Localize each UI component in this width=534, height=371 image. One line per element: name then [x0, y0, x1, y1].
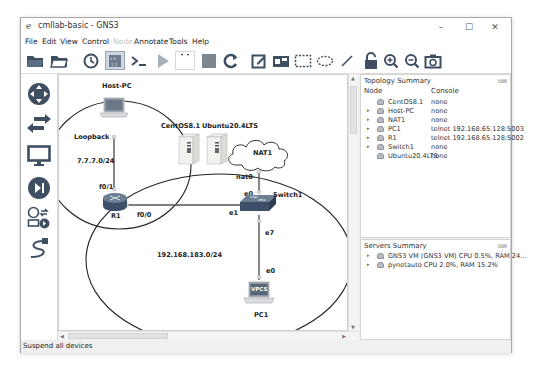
- panel-float-close-icons[interactable]: ⧉⊠: [498, 242, 507, 250]
- centos-node[interactable]: [177, 133, 201, 169]
- column-node: Node: [364, 87, 382, 95]
- add-link-button[interactable]: [25, 234, 53, 262]
- end-devices-button[interactable]: [25, 142, 53, 170]
- scroll-right-icon[interactable]: ▶: [342, 333, 346, 339]
- topology-row[interactable]: CentOS8.1 none: [361, 98, 510, 107]
- interface-labels-icon: a b1 2: [108, 54, 122, 68]
- expand-arrow-icon[interactable]: ▸: [367, 143, 370, 149]
- nat1-label: NAT1: [253, 149, 272, 157]
- draw-ellipse-button[interactable]: [315, 51, 335, 70]
- topology-summary-panel: Topology Summary ⧉⊠ Node Console CentOS8…: [360, 74, 511, 238]
- servers-summary-title: Servers Summary: [364, 242, 427, 250]
- open-recent-button[interactable]: [49, 51, 69, 70]
- host-pc-node[interactable]: [99, 97, 129, 123]
- switches-button[interactable]: [25, 111, 53, 139]
- unlock-icon: [364, 52, 378, 70]
- switch-arrows-icon: [26, 114, 52, 136]
- server-status-icon: [377, 262, 384, 268]
- server-row[interactable]: ▸ pynetauto CPU 2.0%, RAM 15.2%: [361, 261, 510, 270]
- svg-text:a b: a b: [110, 56, 117, 61]
- title-bar: ℯ cmllab-basic - GNS3 – ☐ ✕: [21, 18, 511, 36]
- expand-arrow-icon[interactable]: ▸: [367, 107, 370, 113]
- panel-float-close-icons[interactable]: ⧉⊠: [498, 77, 507, 85]
- zoom-in-icon: [383, 53, 399, 69]
- close-button[interactable]: ✕: [483, 20, 507, 34]
- minimize-button[interactable]: –: [429, 20, 453, 34]
- switch-icon: [239, 193, 277, 213]
- nat1-node[interactable]: NAT1: [224, 135, 300, 177]
- draw-line-button[interactable]: [337, 51, 357, 70]
- zoom-in-button[interactable]: [381, 51, 401, 70]
- loopback-network-label: 7.7.7.0/24: [77, 157, 114, 165]
- node-status-icon: [377, 126, 384, 132]
- add-note-button[interactable]: [249, 51, 269, 70]
- gns3-app-icon: ℯ: [26, 21, 31, 31]
- expand-arrow-icon[interactable]: ▸: [367, 252, 370, 258]
- topology-canvas[interactable]: Host-PC Loopback 7.7.7.0/24 f0/1 CentOS8…: [58, 74, 348, 331]
- security-devices-button[interactable]: [25, 174, 53, 202]
- console-all-button[interactable]: [129, 51, 149, 70]
- device-type-bar: [21, 74, 58, 340]
- open-project-button[interactable]: [25, 51, 45, 70]
- cable-icon: [27, 236, 51, 260]
- topology-row[interactable]: ▸ PC1 telnet 192.168.65.128:5003: [361, 125, 510, 134]
- start-all-button[interactable]: [153, 51, 173, 70]
- menu-annotate[interactable]: Annotate: [134, 37, 168, 46]
- pc1-label: PC1: [254, 311, 268, 319]
- menu-help[interactable]: Help: [192, 37, 209, 46]
- router-icon: [27, 82, 51, 106]
- router-icon: [102, 192, 128, 212]
- screenshot-button[interactable]: [423, 51, 443, 70]
- topology-row[interactable]: Ubuntu20.4LTS none: [361, 152, 510, 161]
- vertical-scroll-thumb[interactable]: [350, 86, 357, 134]
- menu-tools[interactable]: Tools: [169, 37, 187, 46]
- zoom-out-icon: [404, 53, 420, 69]
- canvas-vertical-scrollbar[interactable]: ▲ ▼: [348, 74, 358, 331]
- routers-button[interactable]: [25, 80, 53, 108]
- horizontal-scroll-thumb[interactable]: [68, 333, 168, 339]
- r1-f01-label: f0/1: [99, 183, 113, 191]
- stop-all-button[interactable]: [199, 51, 219, 70]
- expand-arrow-icon[interactable]: ▸: [367, 134, 370, 140]
- topology-row[interactable]: ▸ Host-PC none: [361, 107, 510, 116]
- topology-row[interactable]: ▸ R1 telnet 192.168.65.128:5002: [361, 134, 510, 143]
- lock-button[interactable]: [361, 51, 381, 70]
- ellipse-icon: [316, 54, 334, 68]
- scroll-left-icon[interactable]: ◀: [60, 333, 64, 339]
- vpcs-badge: VPCS: [251, 286, 267, 292]
- zoom-out-button[interactable]: [402, 51, 422, 70]
- scroll-up-icon[interactable]: ▲: [351, 75, 355, 81]
- expand-arrow-icon[interactable]: ▸: [367, 116, 370, 122]
- main-toolbar: a b1 2: [21, 48, 511, 74]
- menu-file[interactable]: File: [25, 37, 38, 46]
- menu-view[interactable]: View: [60, 37, 78, 46]
- maximize-button[interactable]: ☐: [457, 20, 481, 34]
- menu-control[interactable]: Control: [82, 37, 109, 46]
- scroll-down-icon[interactable]: ▼: [351, 324, 355, 330]
- insert-picture-button[interactable]: [271, 51, 291, 70]
- canvas-horizontal-scrollbar[interactable]: ◀ ▶: [58, 331, 358, 340]
- all-devices-button[interactable]: [25, 204, 53, 232]
- pc1-e0-port-label: e0: [266, 267, 275, 275]
- svg-text:1 2: 1 2: [111, 62, 118, 67]
- reload-icon: [223, 53, 239, 69]
- security-icon: [27, 176, 51, 200]
- topology-row[interactable]: ▸ NAT1 none: [361, 116, 510, 125]
- menu-edit[interactable]: Edit: [42, 37, 57, 46]
- suspend-all-button[interactable]: [175, 51, 195, 70]
- topology-row[interactable]: ▸ Switch1 none: [361, 143, 510, 152]
- draw-rectangle-button[interactable]: [293, 51, 313, 70]
- snapshot-button[interactable]: [81, 51, 101, 70]
- folder-icon: [26, 54, 44, 68]
- expand-arrow-icon[interactable]: ▸: [367, 125, 370, 131]
- lan-network-label: 192.168.183.0/24: [157, 251, 222, 259]
- reload-all-button[interactable]: [221, 51, 241, 70]
- expand-arrow-icon[interactable]: ▸: [367, 261, 370, 267]
- pc1-node[interactable]: VPCS: [243, 281, 275, 311]
- host-pc-label: Host-PC: [102, 82, 132, 90]
- switch1-node[interactable]: [239, 193, 277, 217]
- server-row[interactable]: ▸ GNS3 VM (GNS3 VM) CPU 0.5%, RAM 24...: [361, 252, 510, 261]
- line-icon: [339, 53, 355, 69]
- node-status-icon: [377, 99, 384, 105]
- show-interface-labels-button[interactable]: a b1 2: [105, 51, 125, 70]
